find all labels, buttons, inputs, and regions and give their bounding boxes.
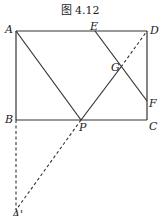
segment-AP [16,31,81,120]
segment-PG [81,67,121,120]
label-G: G [111,62,120,73]
label-A-prime: A' [12,209,23,216]
label-A: A [5,24,13,35]
geometry-diagram [0,0,160,216]
label-P: P [79,122,86,133]
segment-GD-dashed [121,31,147,67]
label-C: C [149,121,157,132]
label-E: E [90,21,98,32]
segment-PA-prime-dashed [16,120,81,210]
label-F: F [149,98,157,109]
label-D: D [150,25,159,36]
label-B: B [5,114,13,125]
